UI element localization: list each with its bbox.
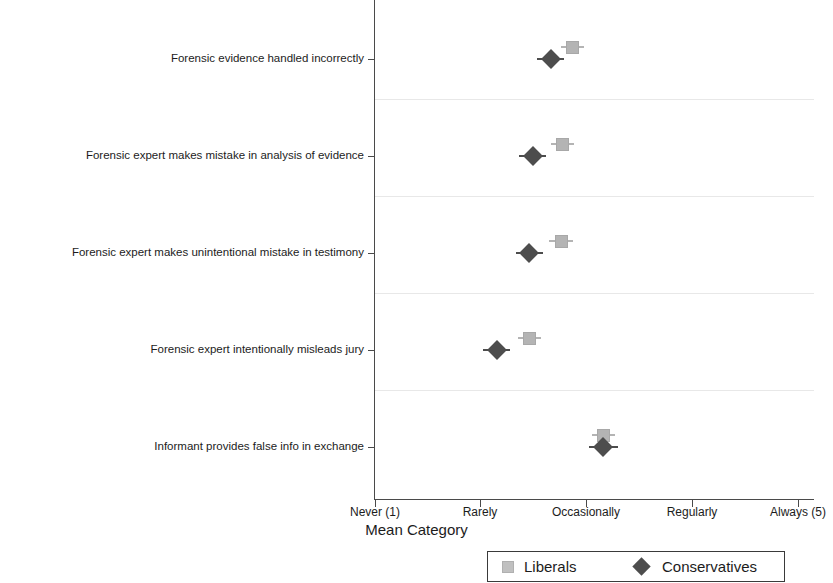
y-axis-tick <box>368 156 375 157</box>
y-axis-tick <box>368 447 375 448</box>
square-marker-icon <box>502 561 514 573</box>
diamond-marker-icon <box>487 340 507 360</box>
diamond-marker-icon <box>541 49 561 69</box>
y-axis-tick <box>368 350 375 351</box>
y-axis-tick <box>368 59 375 60</box>
square-marker-icon <box>556 138 569 151</box>
x-axis-title: Mean Category <box>0 521 833 538</box>
square-marker-icon <box>555 235 568 248</box>
forensic-error-mean-category-chart: Forensic evidence handled incorrectly Fo… <box>0 0 833 583</box>
legend: Liberals Conservatives <box>487 551 785 582</box>
gridline <box>375 99 814 100</box>
gridline <box>375 390 814 391</box>
gridline <box>375 196 814 197</box>
diamond-marker-icon <box>523 146 543 166</box>
x-axis-tick-label: Regularly <box>667 505 718 519</box>
category-label: Forensic expert intentionally misleads j… <box>0 344 364 356</box>
x-axis-tick-label: Never (1) <box>350 505 400 519</box>
category-label: Forensic evidence handled incorrectly <box>0 53 364 65</box>
diamond-marker-icon <box>519 243 539 263</box>
category-label: Forensic expert makes mistake in analysi… <box>0 150 364 162</box>
square-marker-icon <box>566 41 579 54</box>
x-axis-tick-label: Occasionally <box>552 505 620 519</box>
legend-item-label: Conservatives <box>662 558 757 575</box>
category-label: Forensic expert makes unintentional mist… <box>0 247 364 259</box>
y-axis-tick <box>368 253 375 254</box>
y-axis-line <box>374 0 375 500</box>
legend-item-liberals: Liberals <box>502 552 577 581</box>
x-axis-tick-label: Rarely <box>463 505 498 519</box>
legend-item-conservatives: Conservatives <box>634 552 757 581</box>
gridline <box>375 293 814 294</box>
diamond-marker-icon <box>632 557 650 575</box>
category-label: Informant provides false info in exchang… <box>0 441 364 453</box>
x-axis-tick-label: Always (5) <box>770 505 826 519</box>
legend-item-label: Liberals <box>524 558 577 575</box>
x-axis-line <box>374 499 814 500</box>
square-marker-icon <box>523 332 536 345</box>
